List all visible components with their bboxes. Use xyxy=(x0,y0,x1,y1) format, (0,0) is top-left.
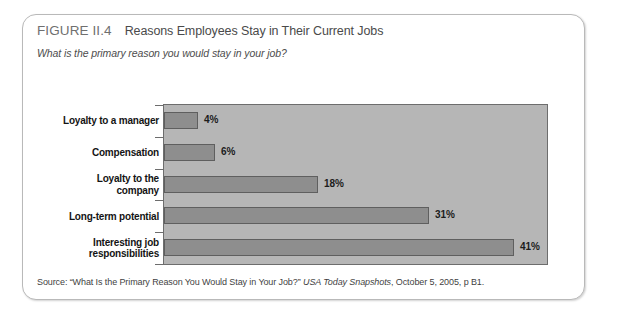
bar-value-label: 18% xyxy=(324,175,344,193)
category-label: Compensation xyxy=(23,147,159,159)
category-label: Loyalty to thecompany xyxy=(23,173,159,196)
bar-value-label: 41% xyxy=(520,238,540,256)
source-publication: USA Today Snapshots xyxy=(303,277,391,287)
tick-mark xyxy=(155,169,163,170)
figure-subtitle: What is the primary reason you would sta… xyxy=(37,47,574,59)
category-label-line: Loyalty to a manager xyxy=(23,115,159,127)
source-note: Source: “What Is the Primary Reason You … xyxy=(37,277,484,287)
tick-mark xyxy=(155,264,163,265)
category-label-line: Long-term potential xyxy=(23,211,159,223)
bar xyxy=(164,176,318,193)
bar xyxy=(164,112,198,129)
bar xyxy=(164,144,215,161)
bar-slot: 41% xyxy=(164,232,548,264)
category-axis-labels: Loyalty to a managerCompensationLoyalty … xyxy=(23,105,159,264)
bar-slot: 31% xyxy=(164,200,548,232)
bar-value-label: 6% xyxy=(221,143,235,161)
source-suffix: , October 5, 2005, p B1. xyxy=(391,277,484,287)
category-label: Loyalty to a manager xyxy=(23,115,159,127)
bar-slot: 4% xyxy=(164,105,548,137)
category-label-line: Loyalty to the xyxy=(23,173,159,185)
figure-number: FIGURE II.4 xyxy=(37,23,112,38)
tick-mark xyxy=(155,137,163,138)
category-label-line: Interesting job xyxy=(23,237,159,249)
source-prefix: Source: “What Is the Primary Reason You … xyxy=(37,277,303,287)
category-label: Interesting jobresponsibilities xyxy=(23,237,159,260)
bar-value-label: 4% xyxy=(204,111,218,129)
category-label-line: company xyxy=(23,185,159,197)
bar-slot: 6% xyxy=(164,137,548,169)
bar-chart: Loyalty to a managerCompensationLoyalty … xyxy=(23,90,584,270)
tick-mark xyxy=(155,105,163,106)
bars-layer: 4%6%18%31%41% xyxy=(164,105,548,264)
bar xyxy=(164,239,514,256)
figure-title-row: FIGURE II.4 Reasons Employees Stay in Th… xyxy=(37,23,574,38)
tick-mark xyxy=(155,232,163,233)
bar-value-label: 31% xyxy=(435,206,455,224)
tick-mark xyxy=(155,200,163,201)
bar xyxy=(164,207,429,224)
bar-slot: 18% xyxy=(164,169,548,201)
page-title: Reasons Employees Stay in Their Current … xyxy=(125,24,384,38)
figure-header: FIGURE II.4 Reasons Employees Stay in Th… xyxy=(37,23,574,59)
figure-card: FIGURE II.4 Reasons Employees Stay in Th… xyxy=(22,14,585,300)
category-label-line: responsibilities xyxy=(23,248,159,260)
category-label-line: Compensation xyxy=(23,147,159,159)
category-label: Long-term potential xyxy=(23,211,159,223)
